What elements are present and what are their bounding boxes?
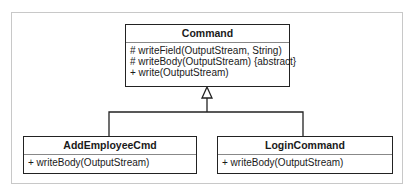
operation: + writeBody(OutputStream) [222,157,388,168]
operation: # writeField(OutputStream, String) [130,45,285,56]
operations-list: + writeBody(OutputStream) [218,155,392,170]
class-login-command[interactable]: LoginCommand + writeBody(OutputStream) [217,136,393,174]
operations-list: # writeField(OutputStream, String) # wri… [126,43,289,80]
operation: + write(OutputStream) [130,67,285,78]
class-add-employee-cmd[interactable]: AddEmployeeCmd + writeBody(OutputStream) [23,136,197,174]
operation: + writeBody(OutputStream) [28,157,192,168]
class-name: LoginCommand [218,137,392,155]
class-command[interactable]: Command # writeField(OutputStream, Strin… [125,24,290,87]
operations-list: + writeBody(OutputStream) [24,155,196,170]
operation: # writeBody(OutputStream) {abstract} [130,56,285,67]
branch-line [109,112,303,136]
generalization-arrow-icon [202,87,212,98]
class-name: AddEmployeeCmd [24,137,196,155]
class-name: Command [126,25,289,43]
